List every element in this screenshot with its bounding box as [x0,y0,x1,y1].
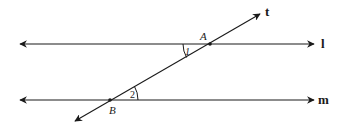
geometry-figure: t l m A B 1 2 [0,0,347,129]
point-a [208,42,212,46]
transversal-t [75,14,260,121]
label-t: t [265,4,270,19]
label-point-b: B [109,104,116,116]
label-l: l [321,36,325,51]
label-angle-2: 2 [130,89,135,100]
point-b [108,98,112,102]
label-angle-1: 1 [185,46,190,57]
label-point-a: A [199,30,207,42]
label-m: m [318,92,329,107]
diagram-canvas: t l m A B 1 2 [0,0,347,129]
